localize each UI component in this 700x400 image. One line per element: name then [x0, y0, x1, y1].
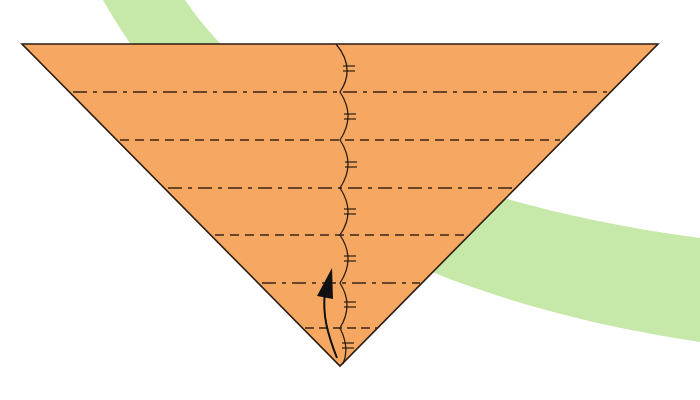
origami-diagram — [0, 0, 700, 400]
